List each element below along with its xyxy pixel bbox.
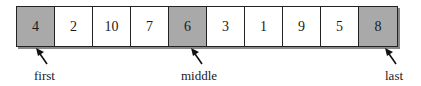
marker-label-last: last — [385, 68, 403, 84]
array-cell-1: 2 — [55, 7, 93, 46]
array-cell-7: 9 — [283, 7, 321, 46]
marker-label-first: first — [34, 68, 55, 84]
array-cell-6: 1 — [245, 7, 283, 46]
array-cell-4: 6 — [169, 7, 207, 46]
array-cell-0: 4 — [17, 7, 55, 46]
array-cell-8: 5 — [321, 7, 359, 46]
array-cell-5: 3 — [207, 7, 245, 46]
arrow-up-left-icon — [34, 47, 54, 67]
array-cell-9: 8 — [359, 7, 397, 46]
array-cell-3: 7 — [131, 7, 169, 46]
arrow-up-left-icon — [189, 47, 209, 67]
array: 4 2 10 7 6 3 1 9 5 8 — [16, 6, 398, 47]
marker-label-middle: middle — [181, 68, 217, 84]
array-cell-2: 10 — [93, 7, 131, 46]
arrow-up-left-icon — [383, 47, 403, 67]
